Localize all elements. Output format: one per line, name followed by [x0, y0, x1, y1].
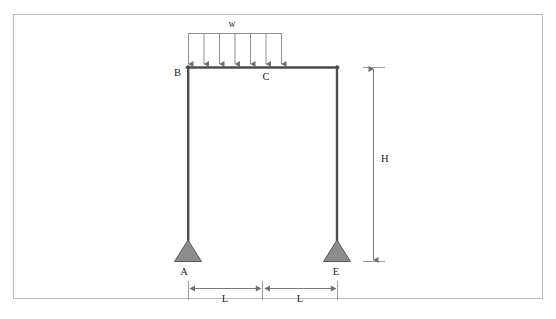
support-a — [175, 240, 202, 262]
node-label-b: B — [174, 67, 181, 78]
load-label: w — [229, 19, 236, 29]
dimension-label-span-left: L — [222, 293, 228, 304]
node-label-c: C — [262, 71, 269, 82]
frame-diagram: w B C A E H — [0, 0, 556, 319]
pin-support-triangle — [324, 240, 351, 262]
dimension-label-h: H — [381, 153, 389, 164]
dimension-span-right: L — [265, 281, 338, 304]
support-e — [324, 240, 351, 262]
node-label-a: A — [180, 266, 188, 277]
frame-members — [187, 67, 338, 248]
dimension-span-left: L — [189, 281, 263, 304]
figure-canvas: · · · · · · — [0, 0, 556, 319]
pin-support-triangle — [175, 240, 202, 262]
figure-border — [14, 15, 543, 299]
distributed-load-group: w — [188, 19, 282, 64]
node-label-e: E — [333, 266, 339, 277]
dimension-label-span-right: L — [297, 293, 303, 304]
dimension-height: H — [363, 68, 389, 262]
